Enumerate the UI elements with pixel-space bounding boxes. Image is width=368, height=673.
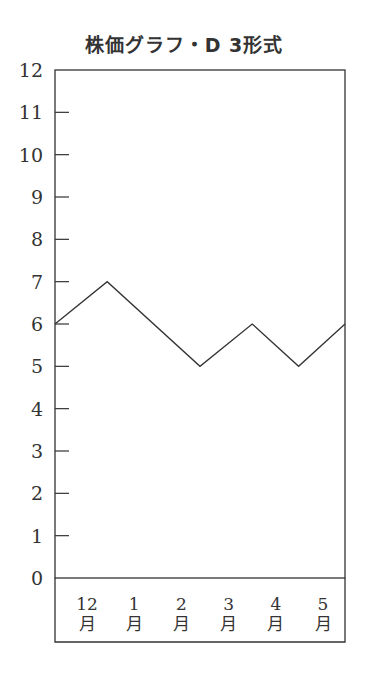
y-tick-label: 2: [31, 482, 43, 504]
x-tick-label-unit: 月: [173, 614, 190, 634]
x-tick-label-unit: 月: [220, 614, 237, 634]
y-tick-label: 5: [31, 355, 43, 377]
y-tick-label: 10: [19, 144, 43, 166]
y-tick-label: 3: [31, 440, 43, 462]
x-tick-label-number: 5: [318, 594, 329, 614]
y-tick-label: 0: [31, 567, 43, 589]
x-tick-label-unit: 月: [79, 614, 96, 634]
x-tick-label-number: 2: [176, 594, 187, 614]
y-tick-label: 1: [31, 525, 43, 547]
y-tick-label: 8: [31, 228, 43, 250]
y-tick-label: 9: [31, 186, 43, 208]
line-chart: 012345678910111212月1月2月3月4月5月: [0, 0, 368, 673]
price-line: [55, 282, 345, 367]
y-tick-label: 7: [31, 271, 43, 293]
x-tick-label-unit: 月: [267, 614, 284, 634]
x-tick-label-number: 4: [270, 594, 281, 614]
y-tick-label: 6: [31, 313, 43, 335]
category-box: [55, 578, 345, 642]
y-tick-label: 12: [19, 59, 43, 81]
x-tick-label-number: 1: [129, 594, 140, 614]
y-tick-label: 11: [19, 101, 43, 123]
plot-area: [55, 70, 345, 578]
x-tick-label-unit: 月: [126, 614, 143, 634]
y-tick-label: 4: [31, 398, 43, 420]
x-tick-label-unit: 月: [315, 614, 332, 634]
x-tick-label-number: 3: [223, 594, 234, 614]
x-tick-label-number: 12: [76, 594, 98, 614]
